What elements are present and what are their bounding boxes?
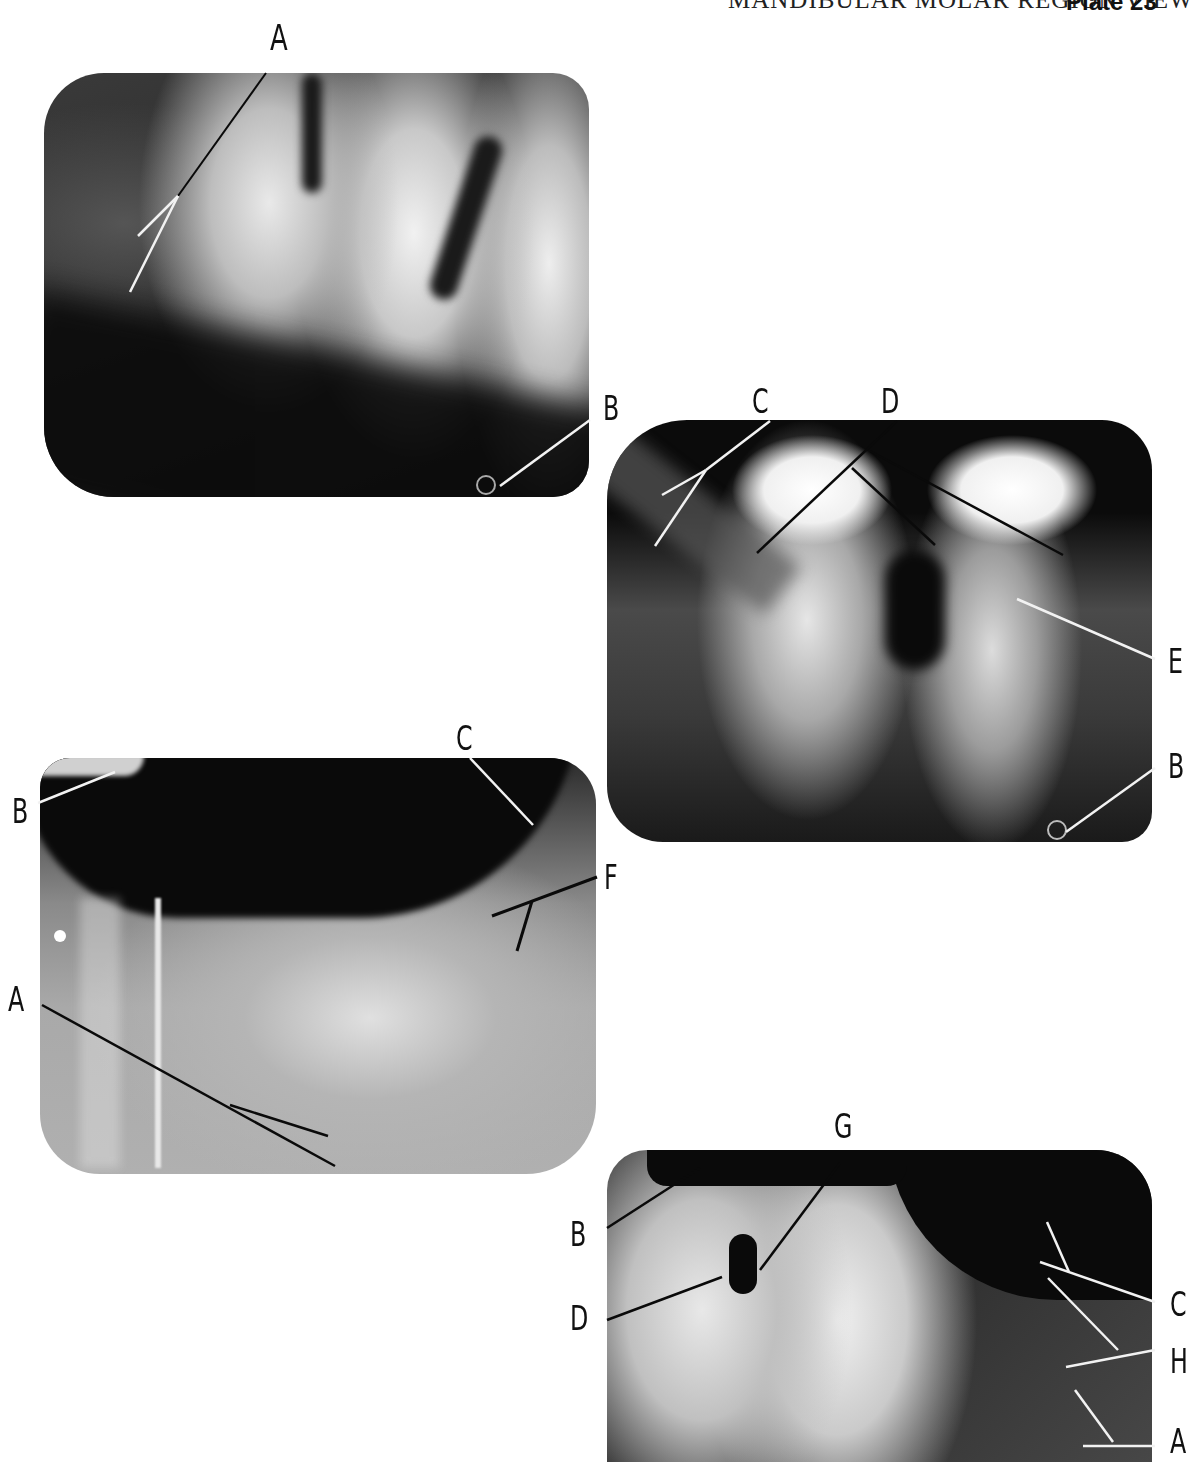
dark-oral-space	[887, 1150, 1152, 1300]
label-a-panel3: A	[8, 983, 24, 1016]
dark-restoration-gap	[647, 1150, 907, 1186]
radiograph-top-left	[44, 73, 589, 497]
root-outline	[80, 898, 120, 1168]
label-a-panel1: A	[270, 20, 288, 56]
label-b-panel1: B	[603, 392, 619, 425]
radiograph-middle-left	[40, 758, 596, 1174]
interproximal-gap	[426, 133, 505, 303]
dark-oral-space	[40, 758, 580, 918]
label-c-panel2: C	[752, 385, 769, 418]
plate-number: Plate 23	[1066, 0, 1157, 16]
label-d-panel4: D	[570, 1302, 588, 1335]
label-b-panel2: B	[1168, 750, 1184, 783]
label-d-panel2: D	[881, 385, 899, 418]
label-c-panel4: C	[1170, 1288, 1187, 1321]
label-b-panel4: B	[570, 1218, 586, 1251]
radiograph-bottom-right	[607, 1150, 1152, 1462]
label-a-panel4: A	[1170, 1425, 1186, 1458]
film-dot-marker	[476, 475, 496, 495]
label-e-panel2: E	[1168, 645, 1183, 678]
dark-canal-band	[607, 426, 801, 615]
label-c-panel3: C	[456, 722, 473, 755]
radiograph-middle-right	[607, 420, 1152, 842]
label-f-panel3: F	[604, 861, 618, 894]
film-dot-marker	[1047, 820, 1067, 840]
label-b-panel3: B	[12, 795, 28, 828]
film-corner-marker	[40, 758, 144, 776]
interproximal-gap	[302, 73, 322, 193]
dark-interproximal	[729, 1234, 757, 1294]
root-outline	[155, 898, 161, 1168]
label-h-panel4: H	[1170, 1345, 1188, 1378]
label-g-panel4: G	[834, 1110, 852, 1143]
bright-spot	[54, 930, 66, 942]
dark-interproximal	[885, 550, 945, 670]
mandibular-border-shadow	[44, 289, 589, 497]
